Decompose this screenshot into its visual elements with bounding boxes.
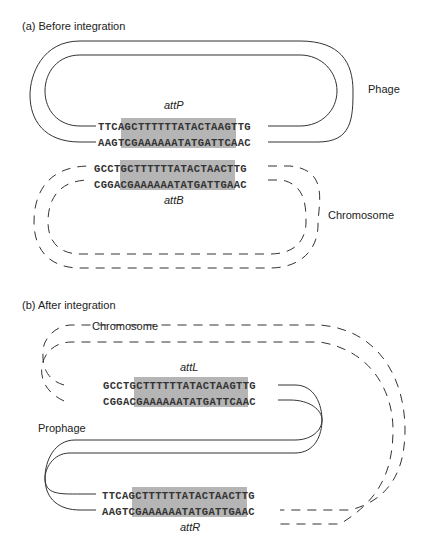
attL-top-strand: GCCTGCTTTTTTATACTAAGTTG	[103, 380, 256, 392]
chromosome-label-b: Chromosome	[92, 320, 158, 332]
attB-bottom-strand: CGGACGAAAAAATATGATTGAAC	[94, 179, 247, 191]
panel-b-title: (b) After integration	[22, 299, 116, 311]
phage-inner-strand	[45, 55, 337, 126]
panel-b-after-integration: (b) After integration Chromosome Prophag…	[22, 299, 405, 533]
chromosome-label-a: Chromosome	[328, 209, 394, 221]
chromosome-inner-strand	[48, 180, 306, 254]
integration-diagram: (a) Before integration Phage attP TTCAGC…	[0, 0, 424, 548]
attR-top-strand: TTCAGCTTTTTTATACTAACTTG	[102, 490, 255, 502]
attP-bottom-strand: AAGTCGAAAAAATATGATTCAAC	[98, 137, 251, 149]
attR-bottom-strand: AAGTCGAAAAAATATGATTGAAC	[102, 506, 255, 518]
attR-label: attR	[180, 521, 200, 533]
attP-top-strand: TTCAGCTTTTTTATACTAAGTTG	[98, 121, 251, 133]
chromosome-outer-strand-b	[43, 325, 405, 510]
panel-a-before-integration: (a) Before integration Phage attP TTCAGC…	[22, 20, 400, 268]
attB-top-strand: GCCTGCTTTTTTATACTAACTTG	[94, 163, 247, 175]
phage-label: Phage	[368, 83, 400, 95]
panel-a-title: (a) Before integration	[22, 20, 125, 32]
attP-label: attP	[164, 99, 184, 111]
prophage-label: Prophage	[38, 422, 86, 434]
attB-label: attB	[164, 194, 184, 206]
attL-bottom-strand: CGGACGAAAAAATATGATTCAAC	[103, 396, 256, 408]
attL-label: attL	[180, 361, 198, 373]
